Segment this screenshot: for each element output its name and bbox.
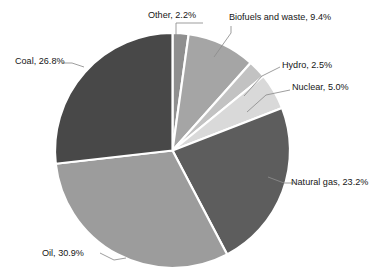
slice-label-natural-gas: Natural gas, 23.2% [291, 177, 368, 188]
pie-chart-canvas [0, 0, 390, 272]
pie-slice-coal [55, 33, 173, 164]
pie-chart: Other, 2.2% Biofuels and waste, 9.4% Hyd… [0, 0, 390, 272]
leader-line-coal [62, 63, 84, 67]
slice-label-oil: Oil, 30.9% [42, 248, 84, 259]
slice-label-hydro: Hydro, 2.5% [282, 60, 332, 71]
slice-label-nuclear: Nuclear, 5.0% [292, 82, 349, 93]
slice-label-other: Other, 2.2% [148, 10, 196, 21]
pie-slice-group [55, 33, 290, 268]
slice-label-coal: Coal, 26.8% [15, 56, 65, 67]
slice-label-biofuels: Biofuels and waste, 9.4% [228, 12, 332, 23]
